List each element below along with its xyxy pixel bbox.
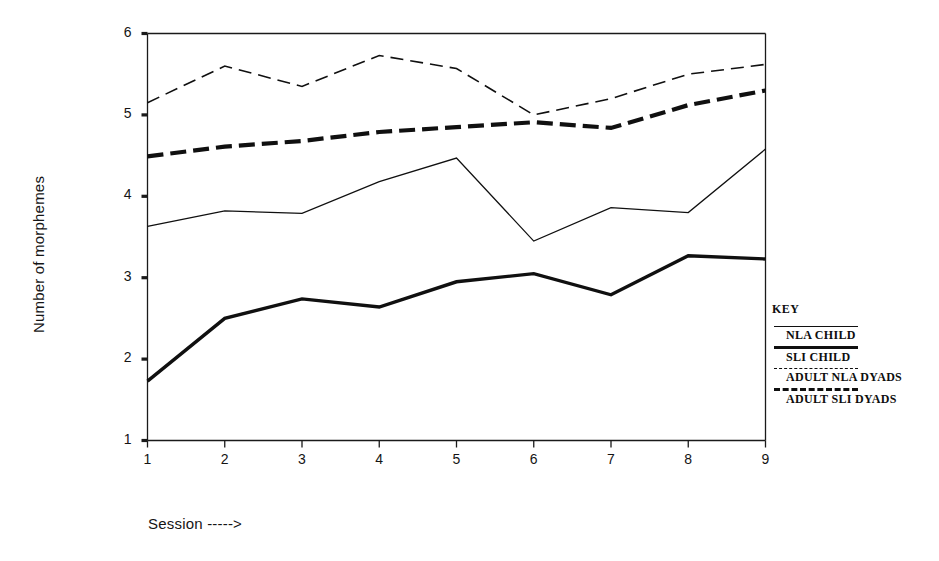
legend-line-swatch-icon [774, 368, 858, 369]
x-tick-label: 8 [676, 451, 700, 467]
axis-lines [148, 34, 766, 441]
legend-entry: ADULT SLI DYADS [772, 388, 932, 407]
x-tick-label: 7 [599, 451, 623, 467]
x-axis-title: Session -----> [148, 515, 242, 532]
y-axis-title: Number of morphemes [30, 155, 47, 355]
legend-label: ADULT NLA DYADS [786, 370, 932, 385]
chart-figure: Number of morphemes Session -----> 12345… [0, 0, 939, 561]
x-tick-label: 5 [445, 451, 469, 467]
y-tick-label: 4 [110, 186, 132, 202]
y-tick-label: 1 [110, 431, 132, 447]
legend-label: SLI CHILD [786, 350, 932, 365]
legend-entries: NLA CHILDSLI CHILDADULT NLA DYADSADULT S… [772, 326, 932, 407]
y-tick-label: 3 [110, 268, 132, 284]
x-tick-label: 9 [754, 451, 778, 467]
legend-label: ADULT SLI DYADS [786, 392, 932, 407]
y-tick-label: 5 [110, 105, 132, 121]
x-tick-label: 2 [213, 451, 237, 467]
legend-entry: NLA CHILD [772, 326, 932, 343]
series-line-3 [148, 90, 766, 156]
y-tick-label: 6 [110, 24, 132, 40]
x-tick-label: 4 [367, 451, 391, 467]
legend-line-swatch-icon [774, 326, 858, 327]
legend-label: NLA CHILD [786, 328, 932, 343]
legend-line-swatch-icon [774, 346, 858, 349]
series-line-2 [148, 55, 766, 114]
chart-legend: KEY NLA CHILDSLI CHILDADULT NLA DYADSADU… [772, 302, 932, 410]
series-line-1 [148, 256, 766, 381]
legend-line-swatch-icon [774, 388, 858, 391]
legend-entry: SLI CHILD [772, 346, 932, 365]
axis-tick-marks [142, 34, 766, 448]
x-tick-label: 1 [136, 451, 160, 467]
line-chart-plot-area [0, 0, 939, 561]
legend-title: KEY [772, 302, 932, 317]
x-tick-label: 3 [290, 451, 314, 467]
data-series-group [148, 55, 766, 381]
series-line-0 [148, 149, 766, 241]
x-tick-label: 6 [522, 451, 546, 467]
legend-entry: ADULT NLA DYADS [772, 368, 932, 385]
y-tick-label: 2 [110, 349, 132, 365]
